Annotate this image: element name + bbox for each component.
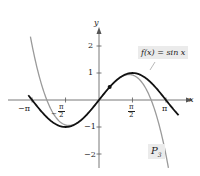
p3-legend-label: P3 — [148, 144, 165, 159]
chart-canvas — [0, 0, 200, 176]
frac-den: 2 — [58, 112, 65, 119]
x-tick-neg-pi: −π — [18, 104, 30, 113]
p3-subscript: 3 — [158, 151, 162, 158]
y-tick-2: 2 — [88, 41, 93, 50]
y-tick-neg1: −1 — [84, 122, 96, 131]
x-tick-pi: π — [162, 104, 167, 113]
y-axis-label: y — [94, 18, 99, 27]
x-axis-label: x — [189, 95, 194, 104]
x-tick-half-pi: π 2 — [128, 104, 135, 119]
y-tick-1: 1 — [88, 68, 93, 77]
frac-den: 2 — [128, 112, 135, 119]
x-tick-neg-half-pi-sign: − — [51, 110, 57, 118]
y-tick-neg2: −2 — [84, 150, 96, 159]
x-tick-neg-half-pi: π 2 — [58, 104, 65, 119]
sin-legend-label: f(x) = sin x — [138, 46, 188, 59]
p3-letter: P — [151, 145, 158, 156]
